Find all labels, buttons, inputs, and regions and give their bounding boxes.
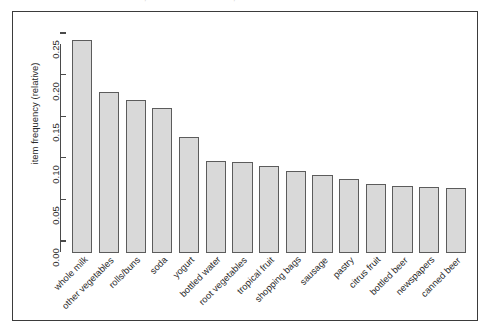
y-axis-tick-label: 0.25 xyxy=(50,33,61,67)
bar-cell xyxy=(336,32,363,253)
bar-cell xyxy=(416,32,443,253)
bar-cell xyxy=(282,32,309,253)
x-axis-tick-labels: whole milkother vegetablesrolls/bunssoda… xyxy=(69,255,469,333)
bar[interactable] xyxy=(312,175,332,253)
bar-cell xyxy=(442,32,469,253)
bar[interactable] xyxy=(286,171,306,253)
bar[interactable] xyxy=(99,92,119,253)
cut-off-text-sliver: . , , . xyxy=(0,0,493,9)
chart-frame: item frequency (relative) 0.000.050.100.… xyxy=(12,11,478,321)
bar[interactable] xyxy=(179,137,199,253)
bar[interactable] xyxy=(419,187,439,253)
y-axis-tick-label-wrap: 0.20 xyxy=(21,69,55,81)
bar[interactable] xyxy=(206,161,226,253)
y-axis-tick xyxy=(60,157,66,158)
y-axis-tick-label-wrap: 0.15 xyxy=(21,110,55,122)
bar-cell xyxy=(202,32,229,253)
y-axis-tick-label: 0.20 xyxy=(50,74,61,108)
bar-cell xyxy=(149,32,176,253)
bar[interactable] xyxy=(392,186,412,253)
bar-cell xyxy=(256,32,283,253)
bar-series xyxy=(69,32,469,253)
y-axis-tick xyxy=(60,199,66,200)
bar[interactable] xyxy=(339,179,359,253)
y-axis-tick-label-wrap: 0.10 xyxy=(21,152,55,164)
bar-cell xyxy=(69,32,96,253)
y-axis-tick-label-wrap: 0.25 xyxy=(21,27,55,39)
y-axis-tick xyxy=(60,74,66,75)
bar-cell xyxy=(229,32,256,253)
y-axis-tick-label-wrap: 0.00 xyxy=(21,235,55,247)
bar[interactable] xyxy=(232,162,252,253)
bar-cell xyxy=(122,32,149,253)
bar-cell xyxy=(96,32,123,253)
y-axis-tick-label: 0.00 xyxy=(50,241,61,275)
bar-cell xyxy=(389,32,416,253)
bar[interactable] xyxy=(446,188,466,253)
y-axis-tick xyxy=(60,32,66,33)
y-axis-tick-label: 0.15 xyxy=(50,116,61,150)
bar-cell xyxy=(309,32,336,253)
x-axis-tick-label: soda xyxy=(148,255,169,276)
bar-cell xyxy=(176,32,203,253)
bar[interactable] xyxy=(152,108,172,253)
x-axis-tick-label: sausage xyxy=(298,255,330,287)
y-axis-tick-label: 0.05 xyxy=(50,199,61,233)
bar[interactable] xyxy=(126,100,146,253)
y-axis-tick xyxy=(60,116,66,117)
bar[interactable] xyxy=(259,166,279,253)
ghost-text: . , , . xyxy=(55,0,367,2)
y-axis-tick-label-wrap: 0.05 xyxy=(21,193,55,205)
plot-area xyxy=(69,32,469,253)
bar-cell xyxy=(362,32,389,253)
y-axis-tick xyxy=(60,240,66,241)
y-axis-tick-label: 0.10 xyxy=(50,157,61,191)
bar[interactable] xyxy=(366,184,386,253)
bar[interactable] xyxy=(72,40,92,253)
